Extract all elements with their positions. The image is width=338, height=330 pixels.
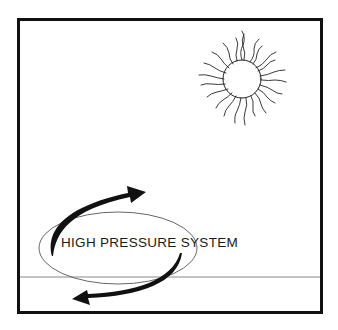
high-pressure-diagram: HIGH PRESSURE SYSTEM — [0, 0, 338, 330]
high-pressure-label: HIGH PRESSURE SYSTEM — [61, 235, 238, 250]
frame-border — [19, 20, 322, 313]
